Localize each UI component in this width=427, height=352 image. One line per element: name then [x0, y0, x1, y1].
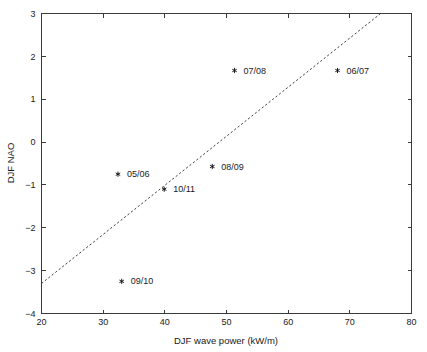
y-tick-label: −4 [25, 309, 35, 319]
y-tick-label: −3 [25, 266, 35, 276]
y-tick-label: 0 [30, 137, 35, 147]
data-point: 06/07 [335, 66, 369, 76]
data-point: 10/11 [162, 184, 195, 194]
scatter-plot-figure: 20304050607080 3210−1−2−3−4 05/0606/0707… [0, 0, 427, 352]
y-tick-label: 1 [30, 94, 35, 104]
x-tick-label: 30 [98, 317, 108, 327]
point-label: 07/08 [244, 66, 267, 76]
x-tick-label: 60 [283, 317, 293, 327]
point-label: 06/07 [347, 66, 370, 76]
y-axis-ticks: 3210−1−2−3−4 [25, 9, 411, 319]
y-tick-label: −2 [25, 223, 35, 233]
x-tick-label: 70 [345, 317, 355, 327]
point-label: 10/11 [173, 184, 195, 194]
x-tick-label: 20 [36, 317, 46, 327]
x-axis-label: DJF wave power (kW/m) [174, 335, 278, 346]
plot-canvas: 20304050607080 3210−1−2−3−4 05/0606/0707… [0, 0, 427, 352]
trend-line [42, 14, 381, 284]
regression-trend-line [42, 14, 381, 284]
data-points-group: 05/0606/0707/0808/0909/1010/11 [116, 66, 369, 287]
x-tick-label: 50 [221, 317, 231, 327]
y-tick-label: −1 [25, 180, 35, 190]
point-label: 09/10 [131, 276, 154, 286]
data-point: 09/10 [119, 276, 153, 286]
point-label: 05/06 [127, 169, 150, 179]
y-axis-label: DJF NAO [5, 143, 16, 184]
y-tick-label: 3 [30, 9, 35, 19]
x-tick-label: 40 [160, 317, 170, 327]
point-label: 08/09 [221, 162, 244, 172]
x-tick-label: 80 [406, 317, 416, 327]
data-point: 05/06 [116, 169, 150, 179]
data-point: 08/09 [210, 162, 244, 172]
data-point: 07/08 [232, 66, 266, 76]
y-tick-label: 2 [30, 52, 35, 62]
